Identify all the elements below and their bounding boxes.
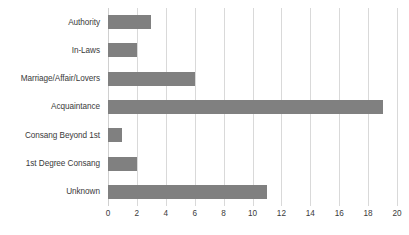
value-axis: 02468101214161820 bbox=[108, 206, 397, 228]
plot-area bbox=[108, 8, 397, 206]
x-tick-label: 8 bbox=[221, 209, 226, 219]
x-tick-label: 14 bbox=[306, 209, 315, 219]
x-tick-label: 18 bbox=[364, 209, 373, 219]
x-tick-label: 10 bbox=[248, 209, 257, 219]
bar bbox=[108, 128, 122, 142]
bar-row bbox=[108, 121, 397, 149]
bar-row bbox=[108, 65, 397, 93]
gridline bbox=[397, 8, 398, 206]
bar bbox=[108, 185, 267, 199]
x-tick-label: 20 bbox=[392, 209, 401, 219]
x-tick-label: 12 bbox=[277, 209, 286, 219]
x-tick-label: 2 bbox=[135, 209, 140, 219]
category-label: Acquaintance bbox=[0, 102, 104, 111]
category-axis: Authority In-Laws Marriage/Affair/Lovers… bbox=[0, 8, 104, 206]
bar-chart: Authority In-Laws Marriage/Affair/Lovers… bbox=[0, 0, 409, 235]
category-label: Consang Beyond 1st bbox=[0, 131, 104, 140]
x-tick-label: 0 bbox=[106, 209, 111, 219]
category-label: In-Laws bbox=[0, 46, 104, 55]
bar-row bbox=[108, 149, 397, 177]
bar bbox=[108, 15, 151, 29]
bar-row bbox=[108, 8, 397, 36]
bar bbox=[108, 43, 137, 57]
bar bbox=[108, 100, 383, 114]
category-label: Authority bbox=[0, 18, 104, 27]
bar-series bbox=[108, 8, 397, 206]
bar bbox=[108, 72, 195, 86]
bar-row bbox=[108, 93, 397, 121]
x-tick-label: 16 bbox=[335, 209, 344, 219]
x-tick-label: 4 bbox=[164, 209, 169, 219]
category-label: Marriage/Affair/Lovers bbox=[0, 74, 104, 83]
bar-row bbox=[108, 36, 397, 64]
x-tick-label: 6 bbox=[192, 209, 197, 219]
category-label: Unknown bbox=[0, 187, 104, 196]
bar-row bbox=[108, 178, 397, 206]
bar bbox=[108, 157, 137, 171]
category-label: 1st Degree Consang bbox=[0, 159, 104, 168]
